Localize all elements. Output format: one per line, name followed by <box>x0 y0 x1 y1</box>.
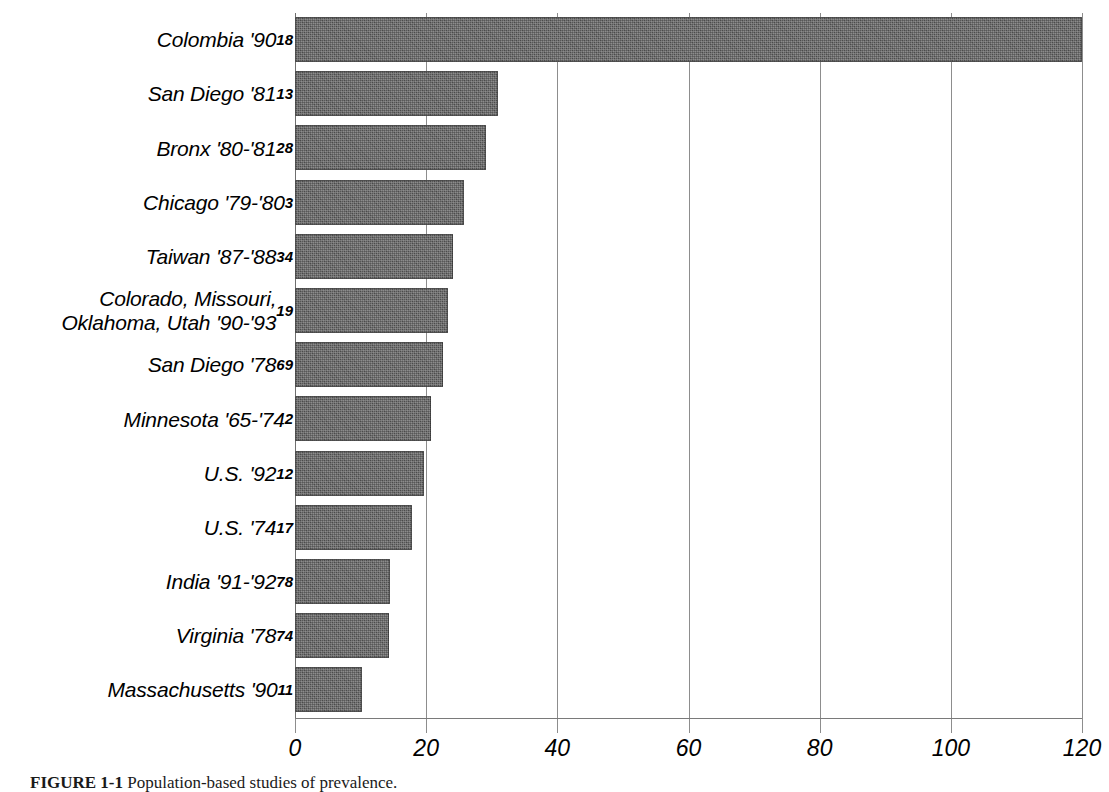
x-tick-label: 0 <box>289 735 302 762</box>
chart-row: San Diego '8113 <box>0 67 1109 121</box>
bar-category-text: Colorado, Missouri, Oklahoma, Utah '90-'… <box>61 287 276 334</box>
x-axis-line <box>295 718 1082 719</box>
tickmark-20 <box>426 718 427 733</box>
bar-wrapper <box>295 180 464 225</box>
bar <box>295 234 453 279</box>
chart-row: Virginia '7874 <box>0 609 1109 663</box>
bar <box>295 71 498 116</box>
x-tick-label: 40 <box>545 735 571 762</box>
bar <box>295 396 431 441</box>
bar-wrapper <box>295 505 412 550</box>
bar-wrapper <box>295 396 431 441</box>
chart-row: Chicago '79-'803 <box>0 176 1109 230</box>
bar-wrapper <box>295 451 424 496</box>
chart-row: Colorado, Missouri, Oklahoma, Utah '90-'… <box>0 284 1109 338</box>
bar-category-label: Taiwan '87-'8834 <box>0 230 295 284</box>
bar-category-text: India '91-'92 <box>166 570 277 594</box>
tickmark-120 <box>1082 718 1083 733</box>
bar-wrapper <box>295 613 389 658</box>
bar-category-label: U.S. '9212 <box>0 447 295 501</box>
bar-category-text: Taiwan '87-'88 <box>146 245 277 269</box>
bar-category-label: San Diego '7869 <box>0 338 295 392</box>
bar-wrapper <box>295 559 390 604</box>
chart-row: Bronx '80-'8128 <box>0 121 1109 175</box>
x-tick-label: 120 <box>1063 735 1101 762</box>
bar-wrapper <box>295 125 486 170</box>
bar-wrapper <box>295 17 1082 62</box>
bar-category-label: Virginia '7874 <box>0 609 295 663</box>
tickmark-100 <box>951 718 952 733</box>
bar <box>295 667 362 712</box>
bar-category-text: San Diego '78 <box>148 353 277 377</box>
x-tick-label: 60 <box>676 735 702 762</box>
bar-category-text: Colombia '90 <box>157 28 277 52</box>
bar-category-text: Virginia '78 <box>176 624 276 648</box>
bar-wrapper <box>295 342 443 387</box>
bar-category-text: Bronx '80-'81 <box>156 137 276 161</box>
bar-category-label: Minnesota '65-'742 <box>0 392 295 446</box>
bar-category-label: San Diego '8113 <box>0 67 295 121</box>
x-tick-label: 80 <box>807 735 833 762</box>
figure-caption: FIGURE 1-1 Population-based studies of p… <box>30 773 1090 792</box>
bar-category-text: San Diego '81 <box>148 82 277 106</box>
bar-category-label: Massachusetts '9011 <box>0 663 295 717</box>
bar-category-text: Chicago '79-'80 <box>143 191 285 215</box>
chart-row: Massachusetts '9011 <box>0 663 1109 717</box>
bar-wrapper <box>295 234 453 279</box>
chart-row: India '91-'9278 <box>0 555 1109 609</box>
tickmark-40 <box>557 718 558 733</box>
chart-row: Colombia '9018 <box>0 13 1109 67</box>
bar-wrapper <box>295 71 498 116</box>
figure-caption-label: FIGURE 1-1 <box>30 773 123 792</box>
x-tick-label: 20 <box>413 735 439 762</box>
bar-category-text: Minnesota '65-'74 <box>124 408 285 432</box>
chart-row: U.S. '9212 <box>0 447 1109 501</box>
bar <box>295 559 390 604</box>
tickmark-60 <box>689 718 690 733</box>
bar <box>295 17 1082 62</box>
bar-chart-plot-area: Colombia '9018San Diego '8113Bronx '80-'… <box>0 0 1109 745</box>
chart-row: Taiwan '87-'8834 <box>0 230 1109 284</box>
bar-wrapper <box>295 667 362 712</box>
chart-row: U.S. '7417 <box>0 501 1109 555</box>
chart-row: San Diego '7869 <box>0 338 1109 392</box>
bar <box>295 125 486 170</box>
bar-category-label: Chicago '79-'803 <box>0 176 295 230</box>
bar-category-label: Bronx '80-'8128 <box>0 121 295 175</box>
chart-row: Minnesota '65-'742 <box>0 392 1109 446</box>
figure-caption-text: Population-based studies of prevalence. <box>127 773 397 792</box>
tickmark-0 <box>295 718 296 733</box>
bar-category-label: U.S. '7417 <box>0 501 295 555</box>
bar-category-text: U.S. '92 <box>204 462 276 486</box>
bar-wrapper <box>295 288 448 333</box>
bar <box>295 342 443 387</box>
bar-category-text: Massachusetts '90 <box>108 678 278 702</box>
tickmark-80 <box>820 718 821 733</box>
bar <box>295 288 448 333</box>
bar-category-label: Colombia '9018 <box>0 13 295 67</box>
bar-category-label: Colorado, Missouri, Oklahoma, Utah '90-'… <box>0 284 295 338</box>
x-tick-label: 100 <box>932 735 970 762</box>
bar <box>295 451 424 496</box>
bar-category-text: U.S. '74 <box>204 516 276 540</box>
bar <box>295 505 412 550</box>
bar <box>295 613 389 658</box>
bar-rows-container: Colombia '9018San Diego '8113Bronx '80-'… <box>0 13 1109 717</box>
bar <box>295 180 464 225</box>
bar-category-label: India '91-'9278 <box>0 555 295 609</box>
